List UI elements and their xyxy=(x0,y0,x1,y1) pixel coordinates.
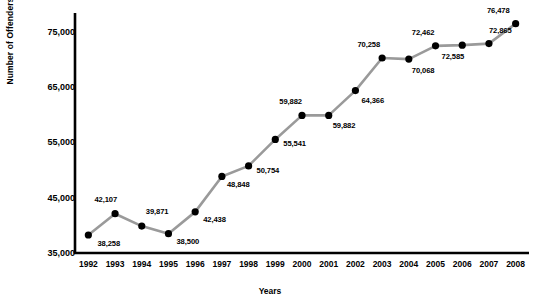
data-point-value-label: 72,865 xyxy=(489,26,512,35)
data-point-value-label: 70,068 xyxy=(412,66,435,75)
data-point-marker[interactable] xyxy=(192,208,199,215)
data-point-marker[interactable] xyxy=(138,222,145,229)
data-point-marker[interactable] xyxy=(298,112,305,119)
data-point-value-label: 59,882 xyxy=(333,121,356,130)
x-tick-label: 1996 xyxy=(186,259,205,269)
data-point-value-label: 38,500 xyxy=(177,237,200,246)
data-point-marker[interactable] xyxy=(245,162,252,169)
data-point-value-label: 38,258 xyxy=(97,239,120,248)
x-axis-title: Years xyxy=(0,286,540,296)
data-point-marker[interactable] xyxy=(85,231,92,238)
x-tick-label: 1992 xyxy=(79,259,98,269)
x-tick-label: 2006 xyxy=(453,259,472,269)
data-point-marker[interactable] xyxy=(352,87,359,94)
data-point-value-label: 59,882 xyxy=(279,97,302,106)
data-point-marker[interactable] xyxy=(379,54,386,61)
line-chart: Number of Offenders 35,00045,00055,00065… xyxy=(0,0,540,307)
x-tick-label: 2008 xyxy=(506,259,525,269)
x-tick-label: 2005 xyxy=(426,259,445,269)
data-point-marker[interactable] xyxy=(405,55,412,62)
x-tick-label: 1994 xyxy=(132,259,151,269)
data-point-marker[interactable] xyxy=(272,136,279,143)
data-point-value-label: 70,258 xyxy=(357,40,380,49)
data-point-value-label: 55,541 xyxy=(283,139,306,148)
data-point-marker[interactable] xyxy=(325,112,332,119)
data-point-marker[interactable] xyxy=(485,40,492,47)
x-tick-label: 2000 xyxy=(293,259,312,269)
data-point-value-label: 72,585 xyxy=(442,52,465,61)
x-tick-label: 2001 xyxy=(319,259,338,269)
data-point-marker[interactable] xyxy=(165,230,172,237)
data-point-marker[interactable] xyxy=(432,42,439,49)
data-point-value-label: 42,107 xyxy=(94,195,117,204)
data-point-marker[interactable] xyxy=(111,210,118,217)
x-tick-label: 2004 xyxy=(399,259,418,269)
data-point-value-label: 72,462 xyxy=(412,28,435,37)
x-tick-label: 1999 xyxy=(266,259,285,269)
x-tick-label: 1995 xyxy=(159,259,178,269)
data-point-marker[interactable] xyxy=(218,173,225,180)
data-point-value-label: 64,366 xyxy=(361,96,384,105)
data-point-value-label: 76,478 xyxy=(487,6,510,15)
data-point-value-label: 42,438 xyxy=(203,215,226,224)
data-point-value-label: 48,848 xyxy=(227,180,250,189)
x-tick-label: 1997 xyxy=(212,259,231,269)
x-tick-label: 1998 xyxy=(239,259,258,269)
data-point-value-label: 50,754 xyxy=(257,166,280,175)
data-point-marker[interactable] xyxy=(459,42,466,49)
x-tick-label: 2007 xyxy=(479,259,498,269)
data-point-marker[interactable] xyxy=(512,20,519,27)
x-tick-label: 2002 xyxy=(346,259,365,269)
x-tick-label: 2003 xyxy=(373,259,392,269)
data-point-value-label: 39,871 xyxy=(146,207,169,216)
x-tick-label: 1993 xyxy=(106,259,125,269)
